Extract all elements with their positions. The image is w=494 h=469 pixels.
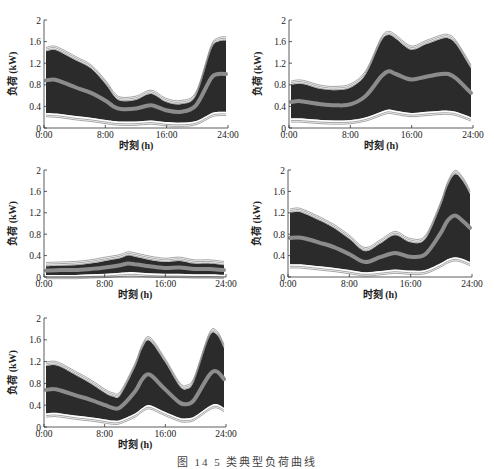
x-tick-label: 16:00: [400, 279, 422, 289]
y-tick-label: 1.6: [274, 37, 286, 47]
y-tick-label: 2: [36, 314, 41, 324]
x-tick-label: 16:00: [156, 130, 178, 140]
x-tick-label: 8:00: [341, 279, 358, 289]
y-tick-label: 0.8: [29, 379, 41, 389]
x-tick-label: 16:00: [155, 279, 177, 289]
chart-panel-4: 00.40.81.21.620:008:0016:0024:00时刻 (h)负荷…: [250, 166, 483, 302]
load-band: [46, 332, 224, 421]
y-tick-label: 0.4: [274, 102, 286, 112]
x-tick-label: 0:00: [36, 429, 53, 439]
y-tick-label: 2: [36, 16, 41, 26]
y-tick-label: 1.2: [29, 357, 41, 367]
x-tick-label: 0:00: [36, 279, 53, 289]
x-axis-label: 时刻 (h): [118, 288, 153, 301]
y-tick-label: 1.6: [29, 335, 41, 345]
y-tick-label: 1.2: [29, 59, 41, 69]
x-tick-label: 0:00: [280, 279, 297, 289]
y-tick-label: 0.8: [29, 230, 41, 240]
y-tick-label: 0.4: [273, 251, 285, 261]
y-tick-label: 1.6: [273, 187, 285, 197]
x-tick-label: 24:00: [215, 279, 237, 289]
x-axis-label: 时刻 (h): [364, 139, 399, 152]
y-tick-label: 0.4: [29, 251, 41, 261]
chart-panel-2: 00.40.81.21.620:008:0016:0024:00时刻 (h)负荷…: [251, 16, 484, 153]
x-tick-label: 8:00: [97, 130, 114, 140]
y-axis-label: 负荷 (kW): [6, 52, 19, 97]
y-tick-label: 1.2: [29, 208, 41, 218]
chart-panel-5: 00.40.81.21.620:008:0016:0024:00时刻 (h)负荷…: [6, 314, 237, 452]
y-tick-label: 2: [36, 166, 41, 176]
y-axis-label: 负荷 (kW): [6, 201, 19, 246]
y-tick-label: 0.8: [29, 80, 41, 90]
chart-panel-1: 00.40.81.21.620:008:0016:0024:00时刻 (h)负荷…: [6, 16, 239, 153]
y-tick-label: 2: [280, 166, 285, 176]
x-axis-label: 时刻 (h): [118, 438, 153, 451]
y-tick-label: 0.8: [273, 230, 285, 240]
x-tick-label: 8:00: [96, 429, 113, 439]
x-tick-label: 8:00: [96, 279, 113, 289]
y-axis-label: 负荷 (kW): [251, 52, 264, 97]
y-axis-label: 负荷 (kW): [6, 350, 19, 395]
x-tick-label: 8:00: [342, 130, 359, 140]
x-tick-label: 24:00: [217, 130, 239, 140]
y-tick-label: 1.6: [29, 187, 41, 197]
x-tick-label: 24:00: [461, 279, 483, 289]
x-tick-label: 24:00: [462, 130, 484, 140]
y-tick-label: 1.6: [29, 37, 41, 47]
y-tick-label: 1.2: [273, 208, 285, 218]
y-tick-label: 1.2: [274, 59, 286, 69]
x-axis-label: 时刻 (h): [363, 288, 398, 301]
x-tick-label: 0:00: [281, 130, 298, 140]
y-axis-label: 负荷 (kW): [250, 201, 263, 246]
figure-caption: 图 14 5 类典型负荷曲线: [0, 453, 494, 469]
x-axis-label: 时刻 (h): [119, 139, 154, 152]
x-tick-label: 16:00: [401, 130, 423, 140]
y-tick-label: 0.4: [29, 102, 41, 112]
x-tick-label: 16:00: [155, 429, 177, 439]
x-tick-label: 0:00: [36, 130, 53, 140]
x-tick-label: 24:00: [215, 429, 237, 439]
chart-panel-3: 00.40.81.21.620:008:0016:0024:00时刻 (h)负荷…: [6, 166, 237, 302]
y-tick-label: 2: [281, 16, 286, 26]
y-tick-label: 0.8: [274, 80, 286, 90]
y-tick-label: 0.4: [29, 401, 41, 411]
